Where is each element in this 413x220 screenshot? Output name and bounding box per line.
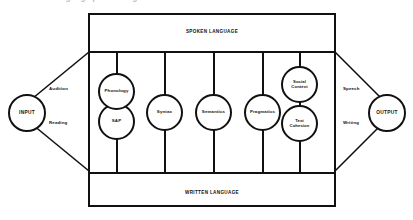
spoken-language-label: SPOKEN LANGUAGE [88,29,336,34]
node-input[interactable]: INPUT [8,94,46,132]
node-text-cohesion[interactable]: TextCohesion [281,105,318,142]
node-semantics-label: Semantics [201,110,226,115]
clipped-caption-text: A model of language processing [8,0,137,2]
diagram-canvas: A model of language processing SPOKEN LA… [0,0,413,220]
node-pragmatics[interactable]: Pragmatics [244,94,281,131]
clipped-caption: A model of language processing [0,0,413,8]
node-pragmatics-label: Pragmatics [249,110,276,115]
node-text-cohesion-label: TextCohesion [288,119,312,128]
node-output-label: OUTPUT [375,110,399,115]
path-label-writing: Writing [343,120,359,125]
path-label-reading: Reading [49,120,67,125]
node-social-context-label: SocialContext [289,80,309,89]
node-social-context-line2: Context [290,85,308,89]
written-language-label: WRITTEN LANGUAGE [88,190,336,195]
written-band-divider [88,172,336,174]
node-phonology-label: Phonology [103,89,129,94]
node-semantics[interactable]: Semantics [195,94,232,131]
node-phonology[interactable]: Phonology [98,73,135,110]
node-sap-label: SAP [111,119,122,124]
node-text-cohesion-line2: Cohesion [289,124,311,128]
node-input-label: INPUT [18,110,36,115]
path-label-speech: Speech [343,86,360,91]
node-syntax[interactable]: Syntax [146,94,183,131]
node-output[interactable]: OUTPUT [368,94,406,132]
node-social-context[interactable]: SocialContext [281,66,318,103]
path-label-audition: Audition [49,86,68,91]
node-syntax-label: Syntax [156,110,173,115]
